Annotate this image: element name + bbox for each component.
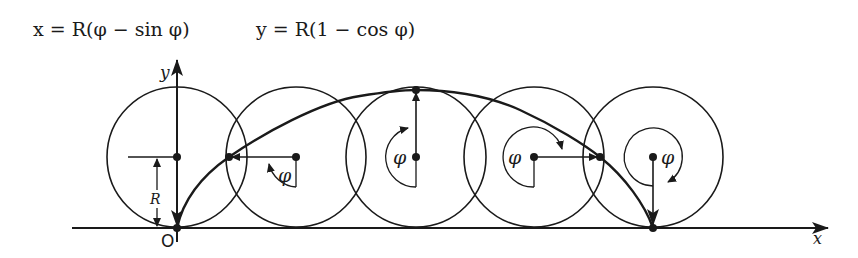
angle-label-5: φ <box>661 146 675 168</box>
cycloid-diagram: y x O R φ φ φ φ <box>0 0 858 258</box>
angle-label-2: φ <box>278 164 292 186</box>
y-axis-label: y <box>159 62 170 82</box>
angle-label-4: φ <box>508 146 522 168</box>
radius-label: R <box>149 191 161 207</box>
angle-label-3: φ <box>393 146 407 168</box>
origin-label: O <box>161 231 174 251</box>
x-axis-label: x <box>813 229 822 248</box>
